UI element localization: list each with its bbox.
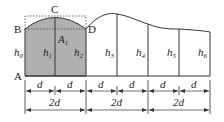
label-B: B	[14, 23, 21, 35]
dim-2d-1: 2d	[49, 96, 61, 108]
dim-d-1: d	[37, 78, 43, 90]
label-h0: h0	[14, 46, 24, 60]
dim-d-6: d	[191, 78, 197, 90]
label-h4: h4	[136, 46, 146, 60]
dim-d-4: d	[129, 78, 135, 90]
label-h3: h3	[105, 46, 115, 60]
dim-2d-3: 2d	[173, 96, 185, 108]
label-A: A	[14, 70, 22, 82]
label-D: D	[88, 23, 96, 35]
label-h6: h6	[198, 46, 208, 60]
dim-d-2: d	[67, 78, 73, 90]
label-h5: h5	[167, 46, 177, 60]
dim-d-5: d	[160, 78, 166, 90]
label-C: C	[51, 3, 58, 15]
dim-d-3: d	[98, 78, 104, 90]
simpson-rule-diagram: C B D A A1 h0 h1 h2 h3 h4 h5 h6 d d d d …	[0, 0, 224, 122]
dim-2d-2: 2d	[111, 96, 123, 108]
